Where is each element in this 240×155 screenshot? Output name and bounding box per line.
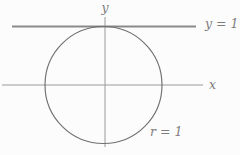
diagram-canvas: y x y = 1 r = 1	[0, 0, 240, 155]
radius-label: r = 1	[150, 124, 182, 139]
x-axis-label: x	[209, 77, 216, 92]
y-axis-label: y	[100, 0, 109, 15]
math-figure: y x y = 1 r = 1	[0, 0, 240, 155]
tangent-line-label: y = 1	[204, 16, 238, 31]
